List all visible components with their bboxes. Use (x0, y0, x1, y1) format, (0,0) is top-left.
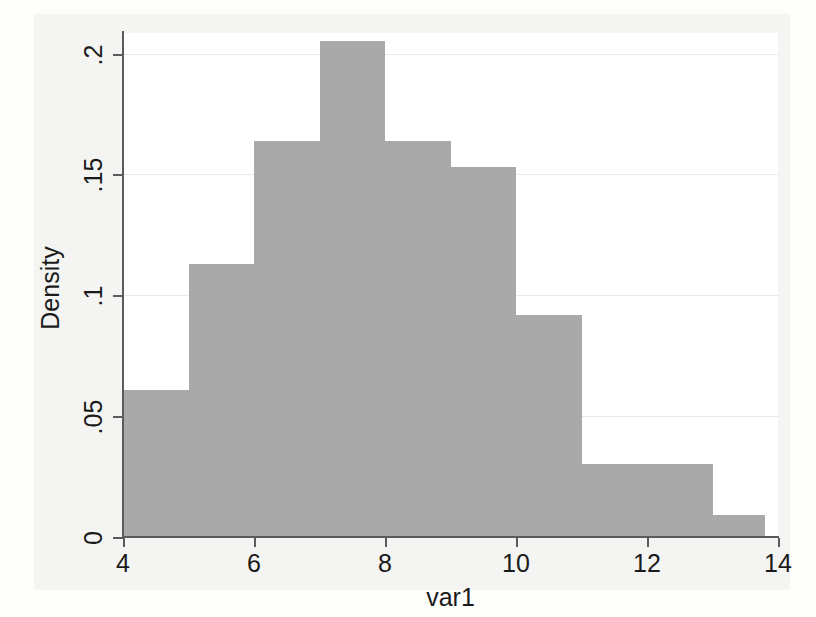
y-axis-tick-label-text: 0 (79, 531, 108, 545)
histogram-bar (385, 141, 451, 537)
y-axis-title-text: Density (36, 246, 65, 329)
y-axis-title: Density (30, 268, 70, 308)
x-axis-line (122, 536, 779, 538)
y-axis-tick-label: .05 (78, 416, 108, 418)
gridline (123, 54, 778, 55)
histogram-bar (582, 464, 713, 537)
histogram-bar (451, 167, 517, 537)
y-axis-tick (113, 295, 123, 297)
x-axis-tick (647, 538, 649, 547)
histogram-figure: 0.05.1.15.2 468101214 Density var1 (0, 0, 816, 617)
y-axis-tick-label: .15 (78, 174, 108, 176)
x-axis-tick-label: 8 (355, 549, 415, 578)
x-axis-title: var1 (123, 583, 778, 612)
y-axis-tick-label-text: .05 (79, 400, 108, 435)
histogram-bar (254, 141, 320, 537)
x-axis-tick (123, 538, 125, 547)
y-axis-tick-label: 0 (78, 537, 108, 539)
x-axis-tick (778, 538, 780, 547)
y-axis-tick-label: .1 (78, 295, 108, 297)
plot-area (123, 33, 778, 537)
y-axis-tick-label-text: .2 (79, 44, 108, 65)
y-axis-tick (113, 416, 123, 418)
x-axis-tick-label: 14 (748, 549, 808, 578)
x-axis-tick-label: 12 (617, 549, 677, 578)
histogram-bar (713, 515, 765, 537)
x-axis-tick-label: 6 (224, 549, 284, 578)
y-axis-tick (113, 537, 123, 539)
histogram-bar (123, 390, 189, 537)
y-axis-tick-label-text: .15 (79, 158, 108, 193)
histogram-bar (320, 41, 386, 537)
x-axis-tick-label: 4 (93, 549, 153, 578)
x-axis-tick (385, 538, 387, 547)
y-axis-line (122, 31, 124, 539)
y-axis-tick-label-text: .1 (79, 286, 108, 307)
y-axis-tick (113, 54, 123, 56)
x-axis-tick (254, 538, 256, 547)
histogram-bar (189, 264, 255, 537)
x-axis-tick (516, 538, 518, 547)
y-axis-tick-label: .2 (78, 54, 108, 56)
y-axis-tick (113, 174, 123, 176)
x-axis-tick-label: 10 (486, 549, 546, 578)
histogram-bar (516, 315, 582, 537)
